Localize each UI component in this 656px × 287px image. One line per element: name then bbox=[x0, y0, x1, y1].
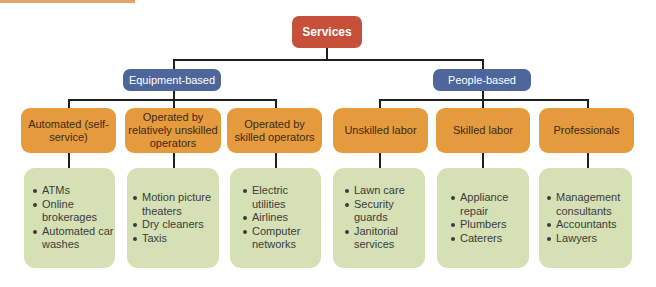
connector-equipment-down bbox=[173, 91, 175, 99]
connector-people-horizontal bbox=[379, 99, 588, 101]
connector-cat4-up bbox=[379, 99, 381, 108]
connector-root-horizontal bbox=[173, 59, 483, 61]
connector-cat1-down bbox=[68, 153, 70, 168]
examples-unskilled-labor: Lawn care Security guards Janitorial ser… bbox=[333, 168, 425, 268]
examples-relatively-unskilled: Motion picture theaters Dry cleaners Tax… bbox=[127, 168, 219, 268]
example-item: Online brokerages bbox=[33, 198, 115, 225]
example-item: ATMs bbox=[33, 184, 115, 198]
example-item: Plumbers bbox=[451, 218, 529, 232]
example-item: Lawyers bbox=[547, 232, 632, 246]
example-list: Appliance repair Plumbers Caterers bbox=[451, 191, 529, 245]
example-list: ATMs Online brokerages Automated car was… bbox=[33, 184, 115, 252]
example-item: Computer networks bbox=[243, 225, 321, 252]
example-item: Taxis bbox=[133, 232, 219, 246]
group-node-equipment-based: Equipment-based bbox=[123, 69, 221, 91]
example-item: Management consultants bbox=[547, 191, 632, 218]
connector-people-down bbox=[482, 91, 484, 99]
connector-to-people bbox=[482, 59, 484, 69]
category-node-professionals: Professionals bbox=[539, 108, 634, 153]
example-item: Electric utilities bbox=[243, 184, 321, 211]
connector-cat5-up bbox=[482, 99, 484, 108]
examples-skilled-labor: Appliance repair Plumbers Caterers bbox=[437, 168, 529, 268]
connector-to-equipment bbox=[173, 59, 175, 69]
examples-professionals: Management consultants Accountants Lawye… bbox=[539, 168, 632, 268]
connector-cat2-up bbox=[173, 99, 175, 108]
example-list: Management consultants Accountants Lawye… bbox=[547, 191, 632, 245]
connector-root-down bbox=[326, 48, 328, 59]
example-item: Security guards bbox=[345, 198, 425, 225]
connector-cat6-up bbox=[587, 99, 589, 108]
category-node-skilled-labor: Skilled labor bbox=[436, 108, 530, 153]
category-node-unskilled-labor: Unskilled labor bbox=[333, 108, 428, 153]
example-list: Electric utilities Airlines Computer net… bbox=[243, 184, 321, 252]
connector-equipment-horizontal bbox=[68, 99, 276, 101]
examples-automated: ATMs Online brokerages Automated car was… bbox=[24, 168, 115, 268]
category-node-automated: Automated (self-service) bbox=[21, 108, 116, 153]
example-item: Appliance repair bbox=[451, 191, 529, 218]
connector-cat4-down bbox=[379, 153, 381, 168]
connector-cat6-down bbox=[587, 153, 589, 168]
connector-cat5-down bbox=[482, 153, 484, 168]
connector-cat2-down bbox=[173, 153, 175, 168]
connector-cat3-up bbox=[275, 99, 277, 108]
example-item: Dry cleaners bbox=[133, 218, 219, 232]
group-node-people-based: People-based bbox=[433, 69, 531, 91]
example-item: Lawn care bbox=[345, 184, 425, 198]
top-accent-strip bbox=[0, 0, 135, 3]
example-item: Automated car washes bbox=[33, 225, 115, 252]
category-node-skilled-operators: Operated by skilled operators bbox=[227, 108, 322, 153]
example-item: Motion picture theaters bbox=[133, 191, 219, 218]
example-item: Airlines bbox=[243, 211, 321, 225]
category-node-relatively-unskilled: Operated by relatively unskilled operato… bbox=[125, 108, 221, 153]
root-node-services: Services bbox=[292, 16, 362, 48]
example-item: Accountants bbox=[547, 218, 632, 232]
connector-cat1-up bbox=[68, 99, 70, 108]
example-list: Lawn care Security guards Janitorial ser… bbox=[345, 184, 425, 252]
example-item: Janitorial services bbox=[345, 225, 425, 252]
examples-skilled-operators: Electric utilities Airlines Computer net… bbox=[230, 168, 321, 268]
example-list: Motion picture theaters Dry cleaners Tax… bbox=[133, 191, 219, 245]
connector-cat3-down bbox=[275, 153, 277, 168]
example-item: Caterers bbox=[451, 232, 529, 246]
